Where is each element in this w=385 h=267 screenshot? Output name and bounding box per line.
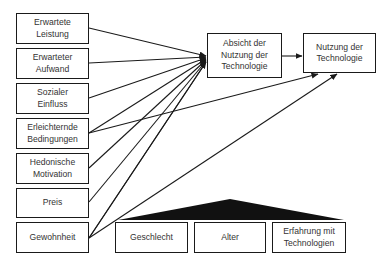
edge-bedingungen-absicht xyxy=(89,59,206,133)
diagram-canvas: Erwartete Leistung Erwarteter Aufwand So… xyxy=(0,0,385,267)
box-sozialer-einfluss: Sozialer Einfluss xyxy=(16,83,89,114)
moderator-triangle xyxy=(118,199,344,220)
label-line: Hedonische xyxy=(30,157,75,169)
label-line: Motivation xyxy=(30,169,75,181)
box-erfahrung-mit-technologien: Erfahrung mit Technologien xyxy=(272,222,346,253)
label-line: Alter xyxy=(221,232,239,244)
label-line: Technologien xyxy=(283,238,335,250)
label-line: Technologie xyxy=(221,61,268,73)
box-gewohnheit: Gewohnheit xyxy=(16,222,89,253)
box-nutzung-der-technologie: Nutzung der Technologie xyxy=(303,33,376,73)
label-line: Absicht der xyxy=(221,38,268,50)
label-line: Erleichternde xyxy=(27,122,78,134)
label-line: Leistung xyxy=(34,29,71,41)
box-hedonische-motivation: Hedonische Motivation xyxy=(16,153,89,184)
edge-hedonisch-absicht xyxy=(89,60,206,168)
box-geschlecht: Geschlecht xyxy=(115,222,188,253)
edge-aufwand-absicht xyxy=(89,57,206,63)
edge-preis-absicht xyxy=(89,61,206,202)
edge-leistung-absicht xyxy=(89,28,206,56)
box-preis: Preis xyxy=(16,188,89,218)
box-alter: Alter xyxy=(194,222,266,253)
label-line: Preis xyxy=(43,197,63,209)
label-line: Nutzung der xyxy=(316,42,363,54)
label-line: Erfahrung mit xyxy=(283,226,335,238)
label-line: Sozialer xyxy=(37,87,68,99)
label-line: Bedingungen xyxy=(27,134,78,146)
box-erwarteter-aufwand: Erwarteter Aufwand xyxy=(16,48,89,79)
box-erwartete-leistung: Erwartete Leistung xyxy=(16,13,89,44)
label-line: Gewohnheit xyxy=(30,232,76,244)
label-line: Geschlecht xyxy=(130,232,173,244)
box-erleichternde-bedingungen: Erleichternde Bedingungen xyxy=(16,118,89,149)
label-line: Einfluss xyxy=(37,99,68,111)
label-line: Erwartete xyxy=(34,17,71,29)
label-line: Aufwand xyxy=(33,64,73,76)
label-line: Nutzung der xyxy=(221,50,268,62)
box-absicht-der-nutzung: Absicht der Nutzung der Technologie xyxy=(207,33,282,78)
label-line: Technologie xyxy=(316,53,363,65)
edge-bedingungen-nutzung xyxy=(89,74,318,133)
edge-einfluss-absicht xyxy=(89,58,206,98)
label-line: Erwarteter xyxy=(33,52,73,64)
